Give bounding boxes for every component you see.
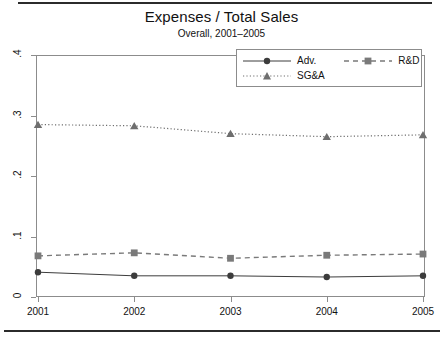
x-tick-mark (231, 297, 232, 302)
y-tick-label: 0 (12, 286, 23, 306)
chart-figure: Expenses / Total Sales Overall, 2001–200… (0, 0, 443, 341)
page-rule-bottom (4, 330, 440, 332)
series-sg-a (34, 121, 427, 140)
x-tick-mark (38, 297, 39, 302)
data-point-marker (35, 269, 41, 275)
data-point-marker (227, 273, 233, 279)
x-tick-mark (327, 297, 328, 302)
data-point-marker (324, 274, 330, 280)
legend-entry-sga: SG&A (241, 68, 325, 83)
legend-sample-sga-icon (241, 69, 293, 83)
y-tick-label: .2 (12, 165, 23, 185)
legend-label-adv: Adv. (293, 55, 316, 66)
x-tick-mark (423, 297, 424, 302)
series-r-d (35, 249, 427, 261)
data-point-marker (227, 255, 234, 262)
chart-subtitle: Overall, 2001–2005 (0, 28, 443, 39)
data-point-marker (34, 121, 42, 128)
legend-row: Adv. R&D (241, 53, 417, 68)
series-adv- (35, 269, 426, 280)
data-point-marker (420, 273, 426, 279)
legend-label-rd: R&D (394, 55, 419, 66)
x-tick-label: 2004 (304, 306, 350, 317)
legend-entry-adv: Adv. (241, 53, 316, 68)
data-point-marker (420, 251, 427, 258)
x-tick-label: 2005 (400, 306, 443, 317)
y-tick-label: .3 (12, 104, 23, 124)
data-point-marker (419, 131, 427, 138)
legend-sample-adv-icon (241, 54, 293, 68)
legend-sample-rd-icon (342, 54, 394, 68)
plot-series-layer (36, 55, 425, 297)
x-tick-label: 2003 (208, 306, 254, 317)
data-point-marker (131, 249, 138, 256)
y-tick-label: .1 (12, 225, 23, 245)
x-tick-label: 2002 (111, 306, 157, 317)
data-point-marker (226, 130, 234, 137)
page-rule-top (18, 2, 432, 4)
legend-row: SG&A (241, 68, 417, 83)
legend-label-sga: SG&A (293, 70, 325, 81)
data-point-marker (35, 252, 42, 259)
y-tick-mark (31, 297, 36, 298)
data-point-marker (323, 252, 330, 259)
x-tick-label: 2001 (15, 306, 61, 317)
legend-entry-rd: R&D (342, 53, 419, 68)
chart-legend: Adv. R&D SG&A (236, 49, 422, 87)
data-point-marker (131, 273, 137, 279)
y-tick-label: .4 (12, 44, 23, 64)
page-title: Expenses / Total Sales (0, 8, 443, 25)
x-tick-mark (134, 297, 135, 302)
